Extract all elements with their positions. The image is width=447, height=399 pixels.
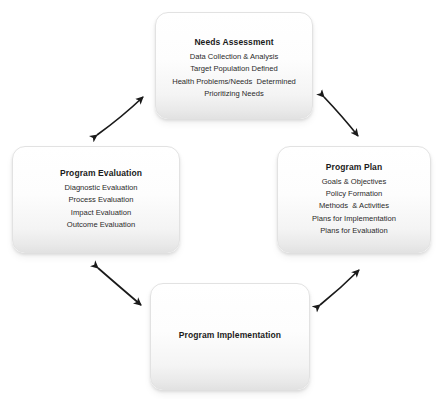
node-line: Goals & Objectives [322,176,387,188]
node-line: Methods & Activities [319,200,389,212]
node-content: Needs Assessment Data Collection & Analy… [156,31,312,100]
node-line: Prioritizing Needs [204,88,264,100]
node-line: Process Evaluation [68,194,133,206]
node-program-plan[interactable]: Program Plan Goals & Objectives Policy F… [277,146,431,253]
node-title: Program Plan [326,162,382,172]
node-line: Data Collection & Analysis [190,51,279,63]
node-line: Policy Formation [326,188,383,200]
node-needs-assessment[interactable]: Needs Assessment Data Collection & Analy… [155,12,313,119]
node-line: Plans for Implementation [312,213,396,225]
node-content: Program Evaluation Diagnostic Evaluation… [8,168,184,231]
node-line: Plans for Evaluation [320,225,388,237]
node-title: Program Implementation [179,330,281,340]
node-line: Impact Evaluation [71,207,131,219]
node-line: Outcome Evaluation [67,219,135,231]
connector-implementation-to-plan [320,270,359,305]
diagram-canvas: Needs Assessment Data Collection & Analy… [0,0,447,399]
node-line: Health Problems/Needs Determined [172,76,296,88]
node-content: Program Plan Goals & Objectives Policy F… [278,162,430,237]
node-title: Program Evaluation [60,168,142,178]
connector-needs-to-evaluation [97,97,143,135]
node-title: Needs Assessment [194,37,273,47]
node-program-implementation[interactable]: Program Implementation [150,283,310,390]
node-program-evaluation[interactable]: Program Evaluation Diagnostic Evaluation… [12,146,180,253]
connector-evaluation-to-implementation [98,268,141,305]
node-content: Program Implementation [151,330,309,344]
node-line: Target Population Defined [190,63,277,75]
connector-needs-to-plan [324,97,358,136]
node-line: Diagnostic Evaluation [64,182,137,194]
